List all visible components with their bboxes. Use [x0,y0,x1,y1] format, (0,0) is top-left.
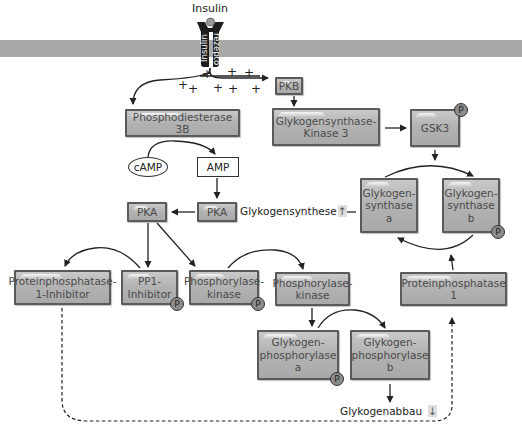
receptor-label-right: rezepto [212,33,222,65]
node-proteinphosphatase-1: Proteinphosphatase 1 [400,272,507,306]
glykogensynthese-label: Glykogensynthese↑ [240,205,347,217]
insulin-signaling-diagram: Insulin [0,0,522,438]
svg-text:+: + [227,65,237,79]
node-gsk3: GSK3 [410,109,460,147]
receptor-label-left: Insulin [199,34,209,62]
node-glykogenphosphorylase-b: Glykogen- phosphorylase b [350,330,430,380]
node-pka-right: PKA [197,202,237,222]
phosphate-badge: P [251,297,265,311]
svg-text:+: + [251,82,261,96]
svg-text:+: + [178,78,188,92]
svg-text:+: + [188,82,198,96]
phosphate-badge: P [491,225,505,239]
node-phosphodiesterase-3b: Phosphodiesterase 3B [125,109,240,137]
node-phosphorylase-kinase-phosphorylated: Phosphorylase- kinase [189,270,259,305]
node-glykogensynthase-kinase-3: Glykogensynthase- Kinase 3 [272,108,380,146]
node-amp: AMP [197,157,239,177]
node-glykogenphosphorylase-a: Glykogen- phosphorylase a [257,330,339,380]
svg-text:+: + [228,82,238,96]
node-glykogensynthase-b: Glykogen- synthase b [442,178,500,233]
node-glykogensynthase-a: Glykogen- synthase a [360,178,418,233]
svg-text:+: + [202,67,212,81]
up-arrow-icon: ↑ [338,205,347,217]
glykogenabbau-label: Glykogenabbau↓ [340,405,437,417]
phosphate-badge: P [330,372,344,386]
node-pkb: PKB [275,77,303,95]
phosphate-badge: P [454,103,468,117]
svg-text:+: + [244,66,254,80]
node-proteinphosphatase-1-inhibitor: Proteinphosphatase- 1-Inhibitor [14,270,111,305]
node-camp: cAMP [128,157,168,177]
node-pka-left: PKA [127,202,167,222]
svg-text:+: + [213,81,223,95]
down-arrow-icon: ↓ [428,405,437,417]
node-phosphorylase-kinase: Phosphorylase- kinase [275,272,350,306]
phosphate-badge: P [170,297,184,311]
node-pp1-inhibitor: PP1- Inhibitor [121,270,178,305]
